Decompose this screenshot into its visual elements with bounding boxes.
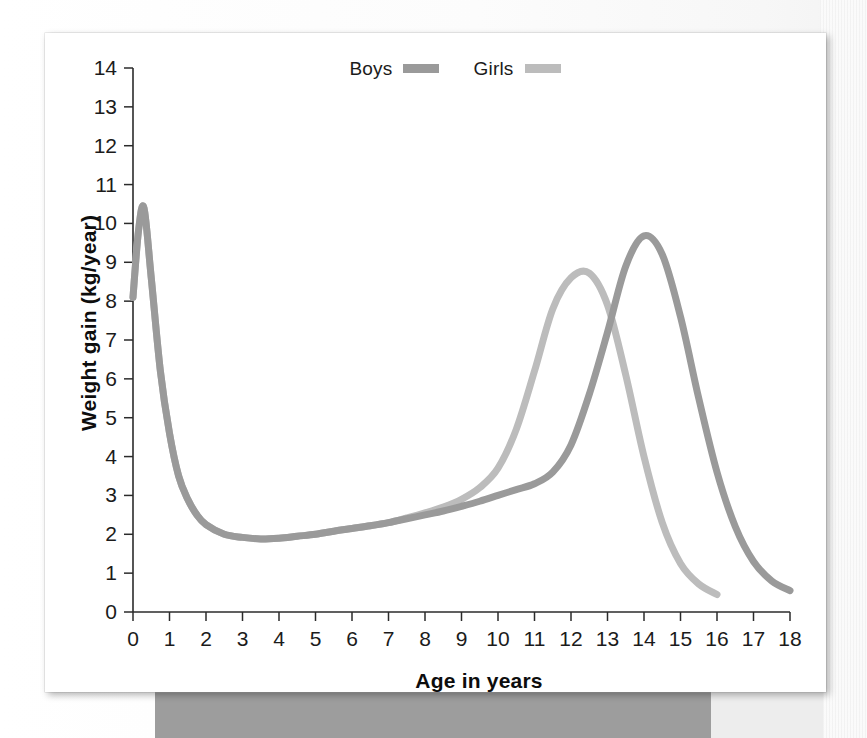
x-tick-label: 18 <box>778 627 801 650</box>
x-tick-label: 17 <box>742 627 765 650</box>
paper-texture-edge <box>820 0 867 738</box>
y-tick-label: 4 <box>105 445 117 468</box>
y-tick-label: 12 <box>94 134 117 157</box>
x-tick-label: 9 <box>456 627 468 650</box>
y-tick-label: 9 <box>105 250 117 273</box>
figure-card: Boys Girls 01234567891011121314012345678… <box>45 33 826 692</box>
y-tick-label: 0 <box>105 600 117 623</box>
y-tick-label: 8 <box>105 289 117 312</box>
x-axis-title: Age in years <box>133 669 825 693</box>
x-tick-label: 8 <box>419 627 431 650</box>
x-tick-label: 7 <box>383 627 395 650</box>
series-group <box>133 206 790 595</box>
page-gray-band-shade <box>711 690 823 738</box>
x-tick-label: 12 <box>559 627 582 650</box>
x-tick-label: 0 <box>127 627 139 650</box>
series-line-boys <box>133 206 790 591</box>
y-tick-label: 2 <box>105 522 117 545</box>
y-tick-label: 13 <box>94 95 117 118</box>
x-tick-label: 15 <box>669 627 692 650</box>
x-tick-label: 6 <box>346 627 358 650</box>
x-tick-label: 3 <box>237 627 249 650</box>
x-tick-label: 11 <box>524 627 546 650</box>
y-tick-label: 7 <box>105 328 117 351</box>
page-gray-band <box>155 690 711 738</box>
x-tick-label: 5 <box>310 627 322 650</box>
x-tick-label: 4 <box>273 627 285 650</box>
x-tick-label: 13 <box>596 627 619 650</box>
x-tick-label: 14 <box>632 627 656 650</box>
plot-area: 0123456789101112131401234567891011121314… <box>45 33 826 692</box>
y-axis-title: Weight gain (kg/year) <box>77 158 101 488</box>
axes-group: 0123456789101112131401234567891011121314… <box>94 56 802 650</box>
x-tick-label: 2 <box>200 627 212 650</box>
chart-svg: 0123456789101112131401234567891011121314… <box>45 33 826 692</box>
x-tick-label: 1 <box>164 627 176 650</box>
y-tick-label: 5 <box>105 406 117 429</box>
y-tick-label: 1 <box>105 561 117 584</box>
y-tick-label: 6 <box>105 367 117 390</box>
x-tick-label: 16 <box>705 627 728 650</box>
y-tick-label: 14 <box>94 56 118 79</box>
y-tick-label: 3 <box>105 483 117 506</box>
x-tick-label: 10 <box>486 627 509 650</box>
